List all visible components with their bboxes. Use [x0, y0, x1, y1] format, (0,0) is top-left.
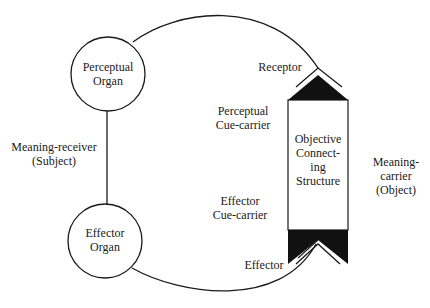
objective-structure-line4: Structure: [290, 174, 346, 188]
meaning-carrier-line2: carrier: [366, 169, 426, 183]
meaning-carrier-line3: (Object): [366, 183, 426, 197]
meaning-receiver-line2: (Subject): [6, 154, 102, 168]
objective-structure-line2: Connect-: [290, 146, 346, 160]
perceptual-organ-line1: Perceptual: [71, 60, 145, 74]
receptor-text: Receptor: [255, 60, 305, 74]
meaning-receiver-line1: Meaning-receiver: [6, 140, 102, 154]
effector-cue-carrier-line2: Cue-carrier: [207, 208, 273, 222]
objective-structure-label: Objective Connect- ing Structure: [290, 132, 346, 188]
effector-cue-block: [288, 230, 348, 264]
effector-text: Effector: [240, 258, 288, 272]
perceptual-cue-carrier-line1: Perceptual: [210, 104, 276, 118]
meaning-receiver-label: Meaning-receiver (Subject): [6, 140, 102, 168]
meaning-carrier-line1: Meaning-: [366, 155, 426, 169]
effector-cue-carrier-line1: Effector: [207, 194, 273, 208]
perceptual-organ-label: Perceptual Organ: [71, 60, 145, 88]
effector-organ-line2: Organ: [68, 240, 142, 254]
perceptual-organ-line2: Organ: [71, 74, 145, 88]
effector-organ-line1: Effector: [68, 226, 142, 240]
objective-structure-line1: Objective: [290, 132, 346, 146]
effector-organ-label: Effector Organ: [68, 226, 142, 254]
perceptual-cue-carrier-line2: Cue-carrier: [210, 118, 276, 132]
objective-structure-line3: ing: [290, 160, 346, 174]
receptor-label: Receptor: [255, 60, 305, 74]
effector-label: Effector: [240, 258, 288, 272]
meaning-carrier-label: Meaning- carrier (Object): [366, 155, 426, 197]
effector-cue-carrier-label: Effector Cue-carrier: [207, 194, 273, 222]
receptor-cue-triangle: [288, 75, 348, 100]
perceptual-cue-carrier-label: Perceptual Cue-carrier: [210, 104, 276, 132]
